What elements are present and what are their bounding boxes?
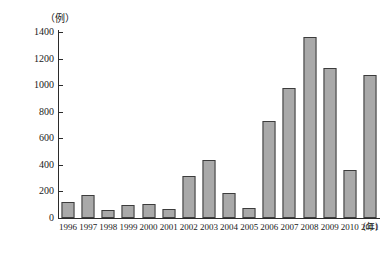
x-axis-tick-label: 2005 [239,221,259,234]
bar [202,160,215,218]
bar-slot [179,32,199,218]
bar [162,209,175,218]
bar-slot [98,32,118,218]
bar [323,68,336,218]
bar-slot [340,32,360,218]
bar-slot [219,32,239,218]
x-axis-tick-label: 2009 [320,221,340,234]
y-axis-tick-mark [58,218,63,219]
x-axis-tick-label: 2001 [159,221,179,234]
x-axis-unit-label: （年） [357,221,384,234]
y-axis-tick-label: 1000 [34,78,54,91]
bar [182,176,195,218]
bar [102,210,115,218]
bar [283,88,296,218]
x-axis-tick-label: 2007 [279,221,299,234]
x-axis-tick-label: 2002 [179,221,199,234]
bar-slot [159,32,179,218]
y-axis-tick-label: 800 [39,105,54,118]
bar-slot [58,32,78,218]
y-axis-tick-label: 400 [39,158,54,171]
x-axis-labels: 1996199719981999200020012002200320042005… [58,221,380,237]
bar [122,205,135,218]
x-axis-tick-label: 2008 [300,221,320,234]
bar-slot [239,32,259,218]
y-axis-tick: 0 [58,218,63,219]
bar-slot [320,32,340,218]
x-axis-tick-label: 2003 [199,221,219,234]
x-axis-tick-label: 1997 [78,221,98,234]
y-axis-tick-label: 200 [39,184,54,197]
bar-slot [139,32,159,218]
bar-slot [279,32,299,218]
bar-slot [118,32,138,218]
bar-slot [360,32,380,218]
bar [243,208,256,218]
x-axis-line [58,218,380,219]
bar [363,75,376,218]
x-axis-tick-label: 1999 [118,221,138,234]
bar-slot [78,32,98,218]
x-axis-tick-label: 2006 [259,221,279,234]
bar-slot [199,32,219,218]
y-axis-unit-label: （例） [30,10,90,25]
bar-slot [300,32,320,218]
bar [263,121,276,218]
bar [62,202,75,218]
x-axis-tick-label: 2004 [219,221,239,234]
bar [142,204,155,218]
y-axis-tick-label: 1400 [34,25,54,38]
y-axis-tick-label: 600 [39,131,54,144]
x-axis-tick-label: 1996 [58,221,78,234]
bar-series [58,32,380,218]
bar [82,195,95,218]
bar [223,193,236,218]
x-axis-tick-label: 1998 [98,221,118,234]
bar-chart: （例） 0200400600800100012001400 1996199719… [0,0,387,258]
y-axis-tick-label: 1200 [34,52,54,65]
bar [303,37,316,218]
x-axis-tick-label: 2000 [139,221,159,234]
bar [343,170,356,218]
y-axis-tick-label: 0 [49,211,54,224]
bar-slot [259,32,279,218]
